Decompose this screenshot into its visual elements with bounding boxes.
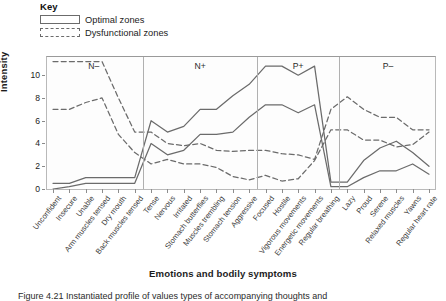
x-tick-mark <box>315 189 316 193</box>
x-tick-mark <box>266 189 267 193</box>
legend-label-dysfunctional: Dysfunctional zones <box>85 28 168 38</box>
series-lines <box>47 57 435 189</box>
figure-caption: Figure 4.21 Instantiated profile of valu… <box>18 291 438 301</box>
zone-label-1: N+ <box>195 61 206 71</box>
y-tick-label: 0 <box>24 184 40 194</box>
x-tick-mark <box>53 189 54 193</box>
y-tick-label: 4 <box>24 138 40 148</box>
x-tick-mark <box>151 189 152 193</box>
y-tick-mark <box>42 143 45 144</box>
y-tick-label: 6 <box>24 116 40 126</box>
zone-label-3: P– <box>383 61 394 71</box>
x-tick-mark <box>233 189 234 193</box>
x-tick-mark <box>184 189 185 193</box>
legend-item-optimal: Optimal zones <box>40 14 168 25</box>
series-line-1 <box>53 105 429 189</box>
x-tick-mark <box>102 189 103 193</box>
x-tick-mark <box>364 189 365 193</box>
series-line-2 <box>53 62 429 160</box>
y-axis-title: Intensity <box>0 52 9 92</box>
zone-divider-3 <box>339 57 340 189</box>
zone-divider-1 <box>143 57 144 189</box>
zone-label-0: N– <box>88 61 99 71</box>
x-tick-mark <box>118 189 119 193</box>
y-tick-label: 2 <box>24 161 40 171</box>
x-tick-mark <box>167 189 168 193</box>
legend-title: Key <box>40 1 168 12</box>
x-tick-mark <box>298 189 299 193</box>
legend-swatch-dashed-icon <box>40 28 80 37</box>
x-axis-title: Emotions and bodily symptoms <box>0 268 446 279</box>
y-tick-label: 8 <box>24 93 40 103</box>
x-tick-mark <box>216 189 217 193</box>
y-tick-label: 10 <box>24 70 40 80</box>
x-tick-mark <box>331 189 332 193</box>
legend-label-optimal: Optimal zones <box>85 15 144 25</box>
x-tick-mark <box>413 189 414 193</box>
series-line-3 <box>53 98 429 181</box>
y-tick-mark <box>42 189 45 190</box>
x-tick-mark <box>86 189 87 193</box>
x-tick-mark <box>282 189 283 193</box>
x-tick-mark <box>380 189 381 193</box>
y-tick-mark <box>42 75 45 76</box>
x-tick-mark <box>69 189 70 193</box>
plot-area: N–N+P+P– <box>46 56 436 190</box>
zone-label-2: P+ <box>293 61 304 71</box>
legend-swatch-solid-icon <box>40 15 80 24</box>
legend-item-dysfunctional: Dysfunctional zones <box>40 27 168 38</box>
y-tick-mark <box>42 121 45 122</box>
y-tick-mark <box>42 98 45 99</box>
chart-legend: Key Optimal zones Dysfunctional zones <box>40 1 168 38</box>
y-tick-mark <box>42 166 45 167</box>
x-tick-mark <box>135 189 136 193</box>
x-tick-mark <box>249 189 250 193</box>
zone-divider-2 <box>257 57 258 189</box>
x-tick-mark <box>200 189 201 193</box>
x-tick-mark <box>347 189 348 193</box>
x-tick-mark <box>396 189 397 193</box>
x-tick-mark <box>429 189 430 193</box>
